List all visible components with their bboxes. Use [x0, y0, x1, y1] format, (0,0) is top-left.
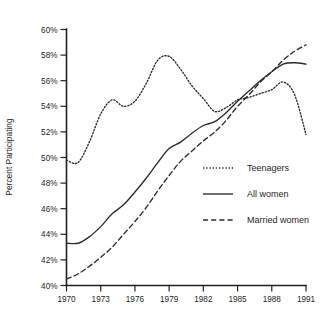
y-tick-label: 58% — [41, 51, 57, 60]
x-tick-label: 1979 — [160, 295, 179, 304]
y-tick-label: 50% — [41, 154, 57, 163]
y-tick-label: 56% — [41, 77, 57, 86]
y-tick-label: 60% — [41, 26, 57, 35]
y-tick-label: 48% — [41, 179, 57, 188]
y-tick-label: 54% — [41, 102, 57, 111]
x-tick-label: 1991 — [297, 295, 316, 304]
chart-container: 40%42%44%46%48%50%52%54%56%58%60% 197019… — [0, 0, 328, 311]
legend-label-teenagers: Teenagers — [247, 163, 290, 173]
labor-force-participation-line-chart: 40%42%44%46%48%50%52%54%56%58%60% 197019… — [0, 0, 328, 311]
x-tick-label: 1973 — [92, 295, 111, 304]
y-tick-label: 46% — [41, 205, 57, 214]
x-tick-label: 1982 — [194, 295, 213, 304]
x-tick-label: 1970 — [57, 295, 76, 304]
y-tick-label: 52% — [41, 128, 57, 137]
x-tick-label: 1988 — [263, 295, 282, 304]
x-tick-label: 1985 — [228, 295, 247, 304]
y-axis-title: Percent Participating — [4, 118, 14, 196]
y-tick-label: 44% — [41, 230, 57, 239]
legend-label-married-women: Married women — [247, 215, 309, 225]
y-tick-label: 42% — [41, 256, 57, 265]
y-tick-label: 40% — [41, 282, 57, 291]
legend-label-all-women: All women — [247, 189, 289, 199]
x-tick-label: 1976 — [126, 295, 145, 304]
